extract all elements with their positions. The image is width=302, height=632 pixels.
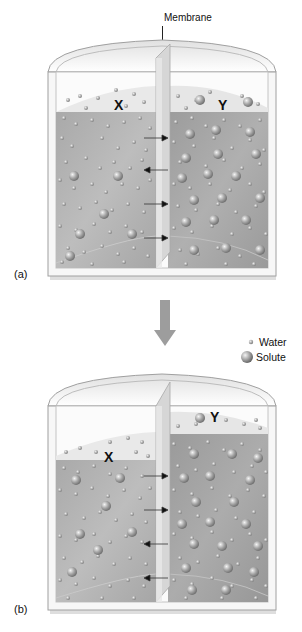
legend-item-solute: Solute <box>240 350 286 364</box>
svg-text:Y: Y <box>210 409 220 425</box>
tank-b: X Y <box>46 372 278 616</box>
legend-label-water: Water <box>259 336 287 348</box>
legend-item-water: Water <box>246 336 287 348</box>
svg-text:X: X <box>114 97 124 113</box>
solute-molecule-icon <box>240 350 254 364</box>
panel-a-label: (a) <box>14 268 27 280</box>
tank-a: X Y <box>46 38 278 282</box>
panel-b-label: (b) <box>14 603 27 615</box>
water-molecule-icon <box>246 337 256 347</box>
svg-text:X: X <box>104 449 114 465</box>
down-arrow-icon <box>154 300 176 346</box>
legend-label-solute: Solute <box>256 351 286 363</box>
svg-text:Y: Y <box>218 97 228 113</box>
membrane-label: Membrane <box>164 12 212 23</box>
